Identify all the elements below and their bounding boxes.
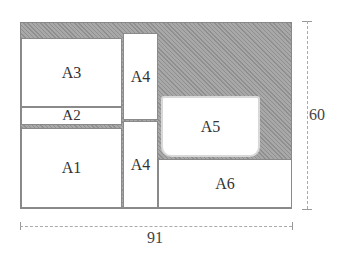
region-a4-top: A4 [123,33,158,120]
width-dimension-label: 91 [147,229,163,247]
region-a5-label: A5 [201,118,221,136]
height-dimension-line [307,21,308,209]
width-dimension-line [20,226,292,227]
region-a6-label: A6 [215,175,235,193]
region-a2: A2 [21,107,122,125]
region-a3: A3 [21,38,122,107]
width-dimension-tick-right [292,222,293,230]
height-dimension-tick-bottom [302,209,312,210]
region-a3-label: A3 [62,64,82,82]
region-a4-bottom-label: A4 [131,156,151,174]
region-a1-label: A1 [62,159,82,177]
height-dimension-label: 60 [309,106,325,124]
region-a2-label: A2 [62,107,80,124]
region-a5: A5 [161,96,260,157]
region-a6: A6 [158,159,292,208]
region-a4-bottom: A4 [123,121,158,208]
region-a1: A1 [21,128,122,208]
region-a4-top-label: A4 [131,68,151,86]
